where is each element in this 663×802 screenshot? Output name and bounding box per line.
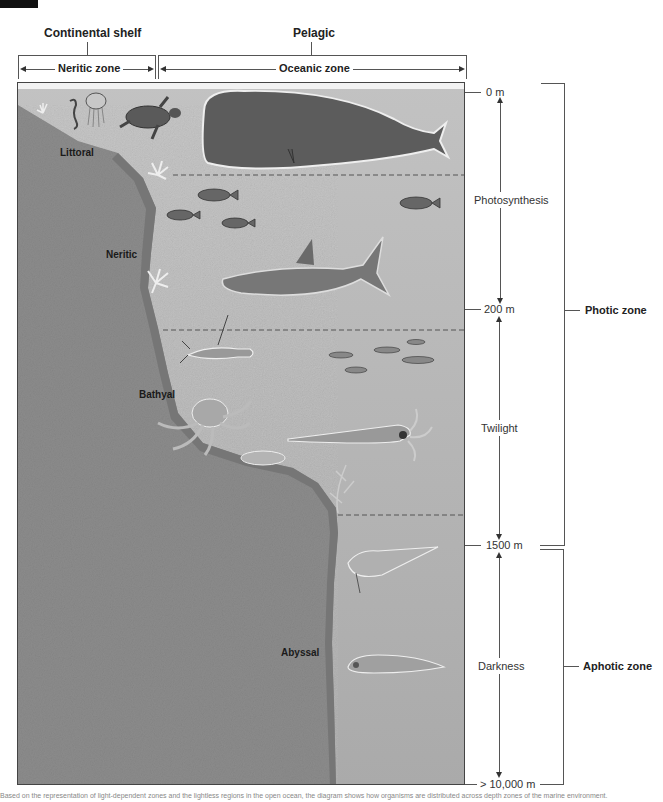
twilight-label: Twilight	[481, 420, 518, 436]
continental-shelf-label: Continental shelf	[44, 26, 141, 40]
arrow-down-icon	[497, 298, 503, 304]
neritic-bracket-top	[18, 55, 156, 56]
arrow-up-icon	[497, 97, 503, 103]
oceanic-zone-label: Oceanic zone	[276, 62, 353, 74]
aphotic-bracket-top	[540, 549, 564, 550]
neritic-bracket-left	[18, 55, 19, 79]
pelagic-tick	[311, 42, 312, 56]
arrow-left-icon	[160, 66, 166, 72]
abyssal-label: Abyssal	[281, 647, 319, 658]
photic-bracket-top	[541, 83, 565, 84]
aphotic-bracket-side	[563, 549, 564, 785]
arrow-up-icon	[496, 316, 502, 322]
photosynthesis-label: Photosynthesis	[474, 192, 549, 208]
corner-marker	[0, 0, 38, 8]
figure-caption: Based on the representation of light-dep…	[0, 792, 663, 802]
arrow-left-icon	[20, 66, 26, 72]
photic-bracket-bottom	[540, 545, 565, 546]
photic-zone-label: Photic zone	[585, 304, 647, 316]
depth-tick-1500	[465, 545, 481, 546]
depth-tick-0	[465, 92, 481, 93]
pelagic-label: Pelagic	[293, 26, 335, 40]
darkness-label: Darkness	[478, 658, 524, 674]
arrow-right-icon	[148, 66, 154, 72]
depth-label-10000m: > 10,000 m	[480, 778, 535, 790]
oceanic-bracket-right	[466, 55, 467, 79]
aphotic-zone-label: Aphotic zone	[583, 660, 652, 672]
photic-bracket-tick	[565, 310, 580, 311]
photic-bracket-side	[564, 83, 565, 546]
continental-shelf-tick	[87, 42, 88, 56]
neritic-zone-label: Neritic zone	[55, 62, 123, 74]
oceanic-bracket-left	[158, 55, 159, 79]
neritic-label: Neritic	[106, 249, 137, 260]
aphotic-bracket-bottom	[540, 784, 564, 785]
depth-label-1500m: 1500 m	[486, 539, 523, 551]
littoral-label: Littoral	[60, 147, 94, 158]
depth-tick-10000	[465, 784, 477, 785]
arrow-up-icon	[496, 552, 502, 558]
depth-tick-200	[465, 309, 481, 310]
oceanic-bracket-top	[158, 55, 466, 56]
aphotic-bracket-tick	[564, 666, 579, 667]
arrow-right-icon	[459, 66, 465, 72]
ocean-illustration	[18, 83, 465, 785]
depth-label-200m: 200 m	[484, 303, 515, 315]
arrow-down-icon	[496, 534, 502, 540]
bathyal-label: Bathyal	[139, 389, 175, 400]
neritic-bracket-right	[155, 55, 156, 79]
arrow-down-icon	[496, 772, 502, 778]
ocean-cross-section: Littoral Neritic Bathyal Abyssal	[17, 82, 465, 785]
